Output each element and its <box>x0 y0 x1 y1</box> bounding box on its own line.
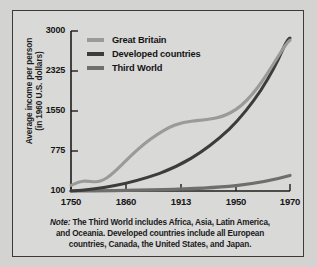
legend-item-great-britain: Great Britain <box>87 33 201 47</box>
y-axis-title-line-2: (in 1960 U.S. dollars) <box>34 26 44 156</box>
legend-swatch-developed-countries <box>87 52 104 56</box>
y-tick-label-100: 100 <box>31 185 65 195</box>
x-tick-label-1950: 1950 <box>216 196 256 207</box>
y-tick-label-775: 775 <box>31 145 65 155</box>
legend-swatch-third-world <box>87 66 104 70</box>
legend-label-great-britain: Great Britain <box>112 35 166 45</box>
note-line-3: countries, Canada, the United States, an… <box>27 239 293 250</box>
x-tick-label-1750: 1750 <box>51 196 91 207</box>
note-line-1-text: The Third World includes Africa, Asia, L… <box>72 218 270 227</box>
legend-item-developed-countries: Developed countries <box>87 47 201 61</box>
y-axis-title-line-1: Average income per person <box>24 38 34 144</box>
y-tick-label-3000: 3000 <box>31 25 65 35</box>
x-tick-label-1860: 1860 <box>106 196 146 207</box>
y-tick-label-2325: 2325 <box>31 65 65 75</box>
chart-note: Note: The Third World includes Africa, A… <box>27 217 293 251</box>
chart-legend: Great Britain Developed countries Third … <box>87 33 201 75</box>
note-label: Note: <box>50 218 70 227</box>
y-axis-title: Average income per person (in 1960 U.S. … <box>24 26 44 156</box>
legend-label-third-world: Third World <box>112 63 162 73</box>
y-tick-label-1550: 1550 <box>31 105 65 115</box>
legend-swatch-great-britain <box>87 38 104 42</box>
legend-item-third-world: Third World <box>87 61 201 75</box>
legend-label-developed-countries: Developed countries <box>112 49 201 59</box>
x-tick-label-1970: 1970 <box>270 196 310 207</box>
x-tick-label-1913: 1913 <box>161 196 201 207</box>
note-line-1: Note: The Third World includes Africa, A… <box>27 217 293 228</box>
chart-card: Average income per person (in 1960 U.S. … <box>12 10 304 257</box>
y-axis-ticks <box>71 31 78 191</box>
note-line-2: and Oceania. Developed countries include… <box>27 228 293 239</box>
